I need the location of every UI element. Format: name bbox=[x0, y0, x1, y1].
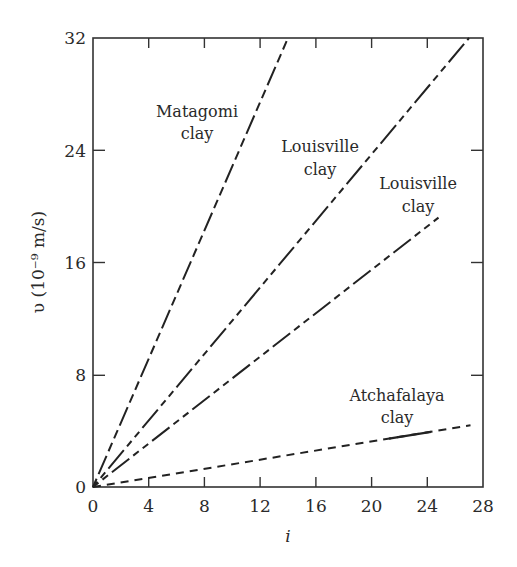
x-tick-label: 20 bbox=[361, 496, 383, 516]
y-tick-label: 24 bbox=[64, 141, 86, 161]
label-louisville-lower-line1: Louisville bbox=[379, 174, 457, 193]
series-labels: Matagomi clay Louisville clay Louisville… bbox=[156, 102, 457, 427]
label-matagomi-line2: clay bbox=[181, 124, 214, 143]
x-tick-label: 0 bbox=[88, 496, 99, 516]
x-axis: 0 4 8 12 16 20 24 28 i bbox=[88, 38, 494, 546]
series-lines bbox=[93, 38, 471, 487]
y-axis-title: υ (10⁻⁹ m/s) bbox=[28, 211, 48, 313]
x-tick-label: 8 bbox=[199, 496, 210, 516]
y-tick-label: 32 bbox=[64, 28, 86, 48]
x-axis-title: i bbox=[285, 526, 290, 546]
y-tick-label: 16 bbox=[64, 253, 86, 273]
x-tick-label: 12 bbox=[249, 496, 271, 516]
y-tick-label: 8 bbox=[75, 365, 86, 385]
x-tick-label: 24 bbox=[416, 496, 438, 516]
x-tick-label: 28 bbox=[472, 496, 494, 516]
plot-frame bbox=[93, 38, 483, 487]
label-louisville-upper-line1: Louisville bbox=[281, 137, 359, 156]
x-tick-label: 4 bbox=[143, 496, 154, 516]
label-louisville-lower-line2: clay bbox=[402, 197, 435, 216]
x-tick-label: 16 bbox=[305, 496, 327, 516]
series-line-louisville-lower bbox=[93, 218, 439, 487]
permeability-chart: 0 4 8 12 16 20 24 28 i 0 8 16 24 32 υ ( bbox=[0, 0, 517, 567]
label-louisville-upper-line2: clay bbox=[304, 160, 337, 179]
label-matagomi-line1: Matagomi bbox=[156, 102, 238, 121]
y-tick-labels: 0 8 16 24 32 bbox=[64, 28, 86, 497]
label-atchafalaya-line2: clay bbox=[381, 408, 414, 427]
label-atchafalaya-line1: Atchafalaya bbox=[348, 386, 445, 405]
y-axis: 0 8 16 24 32 υ (10⁻⁹ m/s) bbox=[28, 28, 483, 497]
series-solid-segment-atchafalaya bbox=[389, 432, 431, 439]
x-tick-labels: 0 4 8 12 16 20 24 28 bbox=[88, 496, 494, 516]
y-tick-label: 0 bbox=[75, 477, 86, 497]
